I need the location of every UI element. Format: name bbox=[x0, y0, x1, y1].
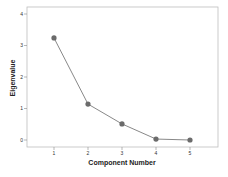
y-tick-label: 2 bbox=[20, 74, 23, 80]
data-point-marker bbox=[153, 136, 158, 141]
y-axis: 01234 bbox=[20, 11, 27, 143]
y-axis-title: Eigenvalue bbox=[9, 59, 17, 96]
x-axis-title: Component Number bbox=[88, 159, 156, 167]
data-point-marker bbox=[51, 35, 56, 40]
x-tick-label: 1 bbox=[53, 150, 56, 156]
x-tick-label: 2 bbox=[87, 150, 90, 156]
data-point-marker bbox=[85, 101, 90, 106]
y-tick-label: 3 bbox=[20, 42, 23, 48]
data-point-marker bbox=[187, 137, 192, 142]
scree-plot: 01234 12345 Component Number Eigenvalue bbox=[0, 0, 228, 177]
x-tick-label: 5 bbox=[189, 150, 192, 156]
data-point-marker bbox=[119, 121, 124, 126]
x-tick-label: 4 bbox=[155, 150, 158, 156]
y-tick-label: 1 bbox=[20, 105, 23, 111]
x-axis: 12345 bbox=[53, 147, 192, 156]
y-tick-label: 4 bbox=[20, 11, 23, 17]
y-tick-label: 0 bbox=[20, 137, 23, 143]
x-tick-label: 3 bbox=[121, 150, 124, 156]
